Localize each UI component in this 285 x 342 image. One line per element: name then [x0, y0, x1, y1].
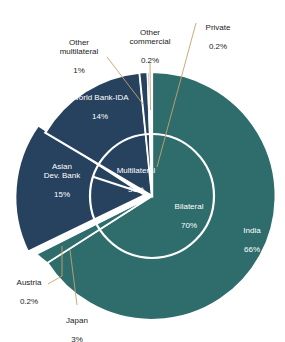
label-bilateral-value: 70% [181, 221, 197, 230]
label-world-bank-ida-value: 14% [92, 112, 108, 121]
label-multilateral-value: 30% [128, 185, 144, 194]
label-india-value: 66% [244, 245, 260, 254]
label-multilateral: Multilateral 30% [100, 156, 172, 194]
pie-chart: Other multilateral 1% Other commercial 0… [0, 0, 285, 342]
label-bilateral-name: Bilateral [175, 202, 204, 211]
label-austria: Austria 0.2% [4, 268, 54, 306]
label-asian-dev-bank-value: 15% [54, 190, 70, 199]
label-asian-dev-bank: Asian Dev. Bank 15% [31, 152, 93, 200]
label-private-name: Private [206, 23, 231, 32]
label-multilateral-name: Multilateral [117, 166, 156, 175]
label-other-multilateral-value: 1% [73, 66, 85, 75]
leader-line-other-commercial [150, 62, 151, 110]
label-austria-name: Austria [17, 278, 42, 287]
label-other-multilateral: Other multilateral 1% [43, 28, 115, 76]
label-world-bank-ida-name: World Bank-IDA [71, 93, 128, 102]
label-japan: Japan 3% [51, 306, 103, 342]
label-austria-value: 0.2% [20, 297, 38, 306]
label-japan-value: 3% [71, 335, 83, 342]
label-other-multilateral-name: Other multilateral [60, 38, 99, 57]
label-other-commercial-value: 0.2% [141, 56, 159, 65]
label-bilateral: Bilateral 70% [160, 192, 218, 230]
label-india: India 66% [228, 216, 276, 254]
label-japan-name: Japan [66, 316, 88, 325]
label-world-bank-ida: World Bank-IDA 14% [67, 83, 133, 121]
label-private-value: 0.2% [209, 42, 227, 51]
label-india-name: India [243, 226, 260, 235]
label-other-commercial: Other commercial 0.2% [117, 18, 183, 66]
label-other-commercial-name: Other commercial [130, 28, 171, 47]
label-asian-dev-bank-name: Asian Dev. Bank [44, 162, 80, 181]
label-private: Private 0.2% [190, 13, 246, 51]
